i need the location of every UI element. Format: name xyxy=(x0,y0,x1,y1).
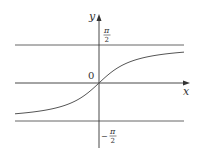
y-axis-label: y xyxy=(88,10,96,23)
upper-label-numerator: π xyxy=(103,26,110,35)
upper-label-denominator: 2 xyxy=(105,36,109,44)
lower-label-denominator: 2 xyxy=(111,137,115,145)
upper-asymptote-label: π 2 xyxy=(103,26,111,44)
origin-label: 0 xyxy=(88,70,94,81)
y-axis-arrow-icon xyxy=(97,14,102,21)
lower-asymptote-label: − π 2 xyxy=(101,127,117,145)
x-axis-label: x xyxy=(183,85,190,98)
lower-label-numerator: π xyxy=(109,127,116,136)
arctan-graph: y x 0 π 2 − π 2 xyxy=(0,0,204,158)
lower-label-sign: − xyxy=(101,132,108,141)
